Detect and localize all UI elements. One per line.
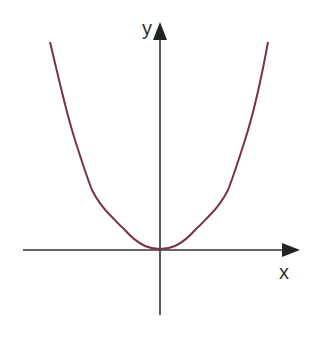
curve	[50, 42, 268, 249]
function-graph: y x	[0, 0, 311, 340]
x-axis-label: x	[279, 262, 289, 282]
graph-svg	[0, 0, 311, 340]
y-axis-label: y	[142, 18, 152, 38]
y-axis-arrow-icon	[153, 22, 167, 40]
x-axis-arrow-icon	[282, 243, 300, 257]
